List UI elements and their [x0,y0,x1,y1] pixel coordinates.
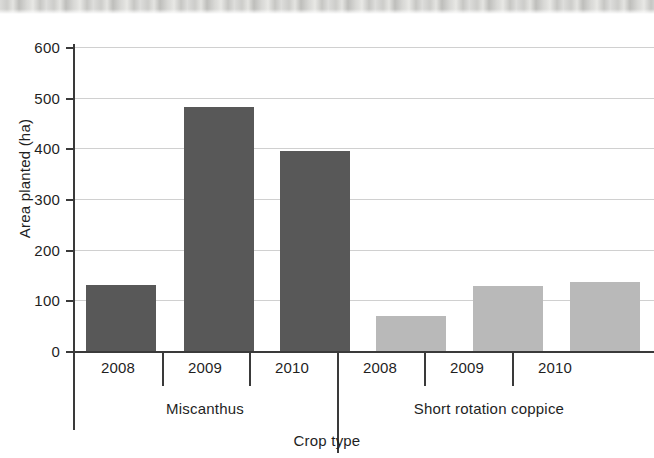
gridline-500 [73,98,654,99]
gridline-600 [73,47,654,48]
y-tick-label-600: 600 [16,39,60,56]
bar-miscanthus-2010 [280,151,350,351]
gridline-200 [73,250,654,251]
x-axis-title: Crop type [0,432,654,449]
y-tick-400 [66,148,75,150]
group-label-miscanthus: Miscanthus [75,400,335,417]
gridline-100 [73,300,654,301]
y-tick-500 [66,98,75,100]
bar-short-rotation-coppice-2009 [473,286,543,351]
y-axis-title: Area planted (ha) [16,79,33,279]
y-tick-200 [66,250,75,252]
bar-chart: 600 500 400 300 200 100 0 Area planted (… [0,0,654,458]
x-axis-line [73,351,654,353]
x-tick-label-short-rotation-coppice-2008: 2008 [339,359,421,376]
x-tick-label-miscanthus-2010: 2010 [251,359,333,376]
group-label-short-rotation-coppice: Short rotation coppice [339,400,639,417]
x-tick-label-miscanthus-2008: 2008 [77,359,159,376]
x-tick-label-short-rotation-coppice-2010: 2010 [514,359,596,376]
bar-short-rotation-coppice-2010 [570,282,640,351]
bar-short-rotation-coppice-2008 [376,316,446,351]
x-tick-label-short-rotation-coppice-2009: 2009 [426,359,508,376]
plot-area [73,47,654,351]
bar-miscanthus-2009 [184,107,254,351]
y-tick-label-100: 100 [16,292,60,309]
y-tick-label-0: 0 [16,343,60,360]
gridline-400 [73,148,654,149]
group-bracket-left-edge [73,353,75,430]
x-tick-label-miscanthus-2009: 2009 [164,359,246,376]
y-tick-600 [66,47,75,49]
y-tick-300 [66,199,75,201]
gridline-300 [73,199,654,200]
bar-miscanthus-2008 [86,285,156,351]
y-tick-100 [66,300,75,302]
